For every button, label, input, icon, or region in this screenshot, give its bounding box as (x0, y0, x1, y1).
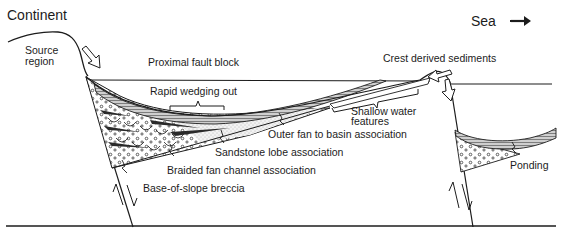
sediment-arrow-left-icon (82, 46, 100, 68)
label-sea: Sea (471, 14, 496, 29)
label-base-of-slope-breccia: Base-of-slope breccia (143, 183, 245, 194)
label-crest-derived-sediments: Crest derived sediments (383, 53, 496, 64)
label-continent: Continent (7, 8, 67, 23)
label-rapid-wedging-out: Rapid wedging out (150, 86, 237, 97)
label-ponding: Ponding (510, 160, 549, 171)
label-outer-fan: Outer fan to basin association (268, 129, 407, 140)
rapid-wedging-brace (170, 101, 224, 110)
label-sandstone-lobe: Sandstone lobe association (215, 147, 343, 158)
basin-cross-section-diagram (0, 0, 561, 236)
label-shallow-water-2: features (351, 116, 389, 127)
label-braided-fan-channel: Braided fan channel association (167, 165, 316, 176)
label-source-region-2: region (25, 56, 54, 67)
sea-direction-arrow-icon (510, 16, 531, 26)
label-proximal-fault-block: Proximal fault block (148, 57, 239, 68)
